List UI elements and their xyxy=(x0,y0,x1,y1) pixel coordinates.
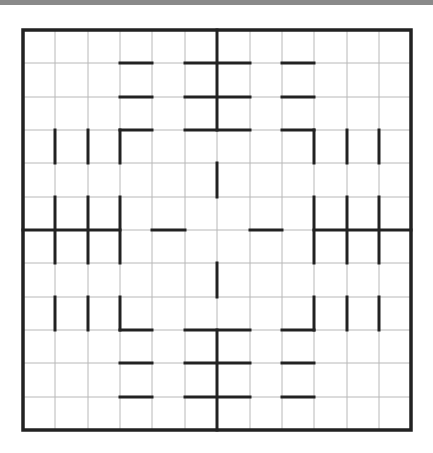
grid-cell[interactable] xyxy=(120,363,152,397)
grid-cell[interactable] xyxy=(250,330,282,363)
grid-cell[interactable] xyxy=(120,330,152,363)
grid-cell[interactable] xyxy=(23,297,55,330)
grid-cell[interactable] xyxy=(185,330,217,363)
grid-cell[interactable] xyxy=(250,163,282,197)
grid-cell[interactable] xyxy=(185,30,217,63)
grid-cell[interactable] xyxy=(347,163,379,197)
grid-cell[interactable] xyxy=(23,163,55,197)
grid-cell[interactable] xyxy=(217,230,250,263)
grid-cell[interactable] xyxy=(314,397,347,430)
grid-cell[interactable] xyxy=(250,263,282,297)
grid-cell[interactable] xyxy=(347,130,379,163)
grid-cell[interactable] xyxy=(55,363,88,397)
grid-cell[interactable] xyxy=(88,30,120,63)
grid-cell[interactable] xyxy=(347,330,379,363)
grid-cell[interactable] xyxy=(217,63,250,97)
grid-cell[interactable] xyxy=(120,197,152,230)
grid-cell[interactable] xyxy=(88,97,120,130)
grid-cell[interactable] xyxy=(282,330,314,363)
grid-cell[interactable] xyxy=(55,263,88,297)
grid-cell[interactable] xyxy=(55,330,88,363)
grid-cell[interactable] xyxy=(347,230,379,263)
grid-cell[interactable] xyxy=(282,230,314,263)
grid-cell[interactable] xyxy=(152,97,185,130)
grid-cell[interactable] xyxy=(120,97,152,130)
grid-cell[interactable] xyxy=(55,30,88,63)
grid-cell[interactable] xyxy=(314,130,347,163)
grid-cell[interactable] xyxy=(88,330,120,363)
grid-cell[interactable] xyxy=(314,30,347,63)
grid-cell[interactable] xyxy=(217,130,250,163)
grid-cell[interactable] xyxy=(152,30,185,63)
grid-cell[interactable] xyxy=(185,263,217,297)
grid-cell[interactable] xyxy=(250,197,282,230)
grid-cell[interactable] xyxy=(88,397,120,430)
grid-cell[interactable] xyxy=(185,363,217,397)
grid-cell[interactable] xyxy=(88,130,120,163)
grid-cell[interactable] xyxy=(152,397,185,430)
grid-cell[interactable] xyxy=(55,97,88,130)
grid-cell[interactable] xyxy=(314,97,347,130)
grid-cell[interactable] xyxy=(250,30,282,63)
grid-cell[interactable] xyxy=(379,330,411,363)
grid-cell[interactable] xyxy=(347,30,379,63)
grid-cell[interactable] xyxy=(23,397,55,430)
grid-cell[interactable] xyxy=(88,230,120,263)
grid-cell[interactable] xyxy=(152,230,185,263)
grid-cell[interactable] xyxy=(152,330,185,363)
grid-cell[interactable] xyxy=(250,363,282,397)
grid-cell[interactable] xyxy=(282,297,314,330)
grid-cell[interactable] xyxy=(282,397,314,430)
grid-cell[interactable] xyxy=(120,163,152,197)
grid-cell[interactable] xyxy=(217,330,250,363)
grid-cell[interactable] xyxy=(23,230,55,263)
grid-cell[interactable] xyxy=(379,63,411,97)
grid-cell[interactable] xyxy=(23,197,55,230)
grid-cell[interactable] xyxy=(250,130,282,163)
grid-cell[interactable] xyxy=(282,97,314,130)
grid-cell[interactable] xyxy=(379,30,411,63)
grid-cell[interactable] xyxy=(88,163,120,197)
grid-cell[interactable] xyxy=(347,97,379,130)
grid-cell[interactable] xyxy=(23,130,55,163)
grid-cell[interactable] xyxy=(55,63,88,97)
grid-cell[interactable] xyxy=(88,297,120,330)
grid-cell[interactable] xyxy=(55,397,88,430)
grid-cell[interactable] xyxy=(23,63,55,97)
grid-cell[interactable] xyxy=(152,263,185,297)
grid-cell[interactable] xyxy=(185,297,217,330)
grid-cell[interactable] xyxy=(250,230,282,263)
grid-cell[interactable] xyxy=(217,97,250,130)
grid-cell[interactable] xyxy=(314,263,347,297)
grid-cell[interactable] xyxy=(185,163,217,197)
grid-cell[interactable] xyxy=(88,263,120,297)
grid-cell[interactable] xyxy=(282,130,314,163)
grid-cell[interactable] xyxy=(120,230,152,263)
grid-cell[interactable] xyxy=(120,130,152,163)
grid-cell[interactable] xyxy=(217,30,250,63)
grid-cell[interactable] xyxy=(120,397,152,430)
grid-cell[interactable] xyxy=(217,297,250,330)
grid-cell[interactable] xyxy=(314,363,347,397)
grid-cell[interactable] xyxy=(379,197,411,230)
grid-cell[interactable] xyxy=(347,263,379,297)
grid-cell[interactable] xyxy=(23,97,55,130)
grid-cell[interactable] xyxy=(55,163,88,197)
grid-cell[interactable] xyxy=(314,163,347,197)
grid-cell[interactable] xyxy=(217,363,250,397)
grid-cell[interactable] xyxy=(379,130,411,163)
grid-cell[interactable] xyxy=(185,63,217,97)
grid-cell[interactable] xyxy=(379,397,411,430)
grid-cell[interactable] xyxy=(152,197,185,230)
grid-cell[interactable] xyxy=(282,63,314,97)
grid-cell[interactable] xyxy=(185,97,217,130)
grid-cell[interactable] xyxy=(88,63,120,97)
puzzle-grid[interactable] xyxy=(0,0,433,453)
grid-cell[interactable] xyxy=(152,63,185,97)
grid-cell[interactable] xyxy=(152,163,185,197)
grid-cell[interactable] xyxy=(88,363,120,397)
grid-cell[interactable] xyxy=(120,297,152,330)
grid-cell[interactable] xyxy=(185,197,217,230)
grid-cell[interactable] xyxy=(23,363,55,397)
grid-cell[interactable] xyxy=(217,163,250,197)
